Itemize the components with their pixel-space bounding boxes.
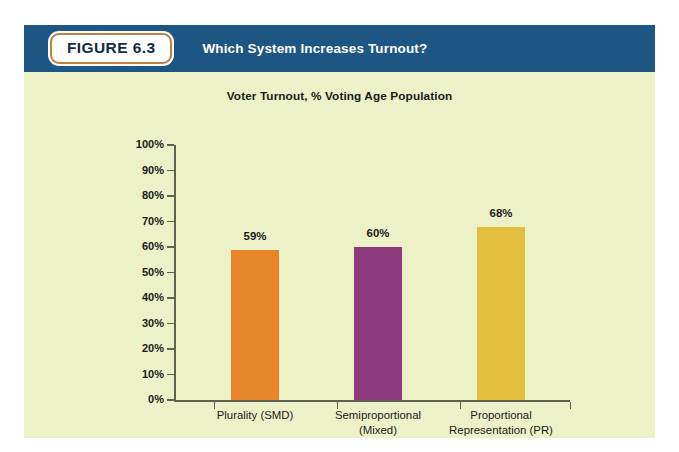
figure-header-title: Which System Increases Turnout? [202, 41, 427, 56]
y-axis-tick-label: 50% [108, 266, 164, 278]
bar [354, 247, 402, 400]
bar-value-label: 68% [461, 207, 541, 219]
figure-number-badge: FIGURE 6.3 [50, 33, 172, 64]
y-axis-tick [167, 170, 174, 171]
y-axis-tick-label: 70% [108, 215, 164, 227]
y-axis-tick [167, 323, 174, 324]
chart-panel: Voter Turnout, % Voting Age Population 1… [24, 72, 655, 438]
bar [477, 227, 525, 400]
x-axis-line [174, 400, 570, 402]
y-axis-tick [167, 144, 174, 145]
y-axis-line [174, 145, 176, 401]
y-axis-tick-label: 40% [108, 291, 164, 303]
y-axis-tick [167, 195, 174, 196]
x-axis-category-label: Plurality (SMD) [185, 408, 325, 423]
y-axis-tick [167, 272, 174, 273]
y-axis-tick [167, 374, 174, 375]
y-axis-tick [167, 348, 174, 349]
x-axis-category-label: ProportionalRepresentation (PR) [431, 408, 571, 438]
y-axis-tick-label: 100% [108, 138, 164, 150]
y-axis-tick-label: 60% [108, 240, 164, 252]
y-axis-tick-label: 90% [108, 164, 164, 176]
y-axis-tick-label: 80% [108, 189, 164, 201]
y-axis-tick-label: 30% [108, 317, 164, 329]
bar-value-label: 60% [338, 227, 418, 239]
y-axis-tick [167, 399, 174, 400]
plot-area: 100%90%80%70%60%50%40%30%20%10%0%59%Plur… [24, 72, 655, 438]
y-axis-tick [167, 246, 174, 247]
figure-number-label: FIGURE 6.3 [67, 39, 155, 56]
y-axis-tick-label: 0% [108, 393, 164, 405]
y-axis-tick-label: 20% [108, 342, 164, 354]
x-axis-category-label: Semiproportional(Mixed) [308, 408, 448, 438]
y-axis-tick-label: 10% [108, 368, 164, 380]
bar [231, 250, 279, 400]
bar-value-label: 59% [215, 230, 295, 242]
figure-header: FIGURE 6.3 Which System Increases Turnou… [24, 25, 655, 72]
figure-container: FIGURE 6.3 Which System Increases Turnou… [24, 25, 655, 438]
y-axis-tick [167, 297, 174, 298]
y-axis-tick [167, 221, 174, 222]
